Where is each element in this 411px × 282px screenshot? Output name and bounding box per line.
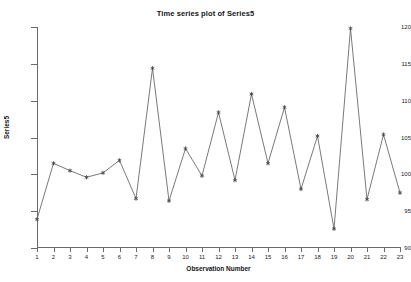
data-point-marker xyxy=(332,227,336,231)
x-axis-title: Observation Number xyxy=(37,265,400,272)
x-tick-label: 18 xyxy=(310,254,326,260)
y-tick-label: 120 xyxy=(385,24,411,30)
y-axis-line xyxy=(37,27,38,248)
chart-figure: Time series plot of Series5 909510010511… xyxy=(0,0,411,282)
x-tick-label: 10 xyxy=(178,254,194,260)
x-tick-label: 14 xyxy=(244,254,260,260)
x-tick-label: 6 xyxy=(112,254,128,260)
data-point-marker xyxy=(151,66,155,70)
y-tick-mark xyxy=(31,211,37,212)
x-tick-mark xyxy=(318,247,319,252)
x-tick-label: 1 xyxy=(29,254,45,260)
x-tick-label: 19 xyxy=(326,254,342,260)
data-point-marker xyxy=(184,146,188,150)
x-tick-mark xyxy=(400,247,401,252)
x-tick-mark xyxy=(252,247,253,252)
x-tick-mark xyxy=(37,247,38,252)
x-tick-mark xyxy=(384,247,385,252)
data-point-marker xyxy=(283,105,287,109)
x-tick-label: 3 xyxy=(62,254,78,260)
x-tick-mark xyxy=(87,247,88,252)
data-point-marker xyxy=(217,110,221,114)
x-tick-label: 11 xyxy=(194,254,210,260)
x-tick-mark xyxy=(367,247,368,252)
data-point-marker xyxy=(52,161,56,165)
data-point-marker xyxy=(266,161,270,165)
x-tick-label: 2 xyxy=(46,254,62,260)
x-tick-label: 16 xyxy=(277,254,293,260)
x-tick-label: 15 xyxy=(260,254,276,260)
x-tick-mark xyxy=(268,247,269,252)
y-tick-label: 90 xyxy=(385,245,411,251)
y-tick-mark xyxy=(31,27,37,28)
y-tick-label: 100 xyxy=(385,171,411,177)
x-tick-label: 7 xyxy=(128,254,144,260)
x-tick-label: 17 xyxy=(293,254,309,260)
data-point-marker xyxy=(365,197,369,201)
x-tick-mark xyxy=(169,247,170,252)
data-point-marker xyxy=(200,174,204,178)
chart-title: Time series plot of Series5 xyxy=(0,9,411,18)
x-tick-mark xyxy=(120,247,121,252)
y-tick-mark xyxy=(31,174,37,175)
series-polyline xyxy=(37,28,400,228)
data-point-marker xyxy=(68,169,72,173)
data-point-marker xyxy=(134,197,138,201)
x-tick-label: 23 xyxy=(392,254,408,260)
x-tick-mark xyxy=(186,247,187,252)
data-point-marker xyxy=(118,158,122,162)
x-tick-label: 22 xyxy=(376,254,392,260)
x-tick-mark xyxy=(219,247,220,252)
x-tick-label: 21 xyxy=(359,254,375,260)
data-point-marker xyxy=(85,175,89,179)
x-tick-label: 12 xyxy=(211,254,227,260)
x-tick-mark xyxy=(202,247,203,252)
data-point-marker xyxy=(233,178,237,182)
x-tick-mark xyxy=(334,247,335,252)
x-tick-label: 8 xyxy=(145,254,161,260)
x-tick-mark xyxy=(351,247,352,252)
x-tick-mark xyxy=(153,247,154,252)
y-tick-label: 110 xyxy=(385,97,411,103)
x-tick-mark xyxy=(285,247,286,252)
y-tick-mark xyxy=(31,64,37,65)
y-tick-mark xyxy=(31,138,37,139)
y-axis-title: Series5 xyxy=(3,106,10,150)
data-point-marker xyxy=(299,187,303,191)
y-tick-label: 95 xyxy=(385,208,411,214)
y-tick-mark xyxy=(31,101,37,102)
x-tick-label: 4 xyxy=(79,254,95,260)
x-tick-mark xyxy=(235,247,236,252)
data-point-marker xyxy=(349,26,353,30)
data-point-marker xyxy=(316,134,320,138)
series-markers xyxy=(35,26,402,231)
x-tick-mark xyxy=(136,247,137,252)
x-tick-label: 5 xyxy=(95,254,111,260)
x-tick-mark xyxy=(103,247,104,252)
x-tick-mark xyxy=(54,247,55,252)
y-tick-label: 105 xyxy=(385,134,411,140)
x-tick-mark xyxy=(301,247,302,252)
data-point-marker xyxy=(101,171,105,175)
data-point-marker xyxy=(398,191,402,195)
x-tick-mark xyxy=(70,247,71,252)
x-tick-label: 13 xyxy=(227,254,243,260)
x-tick-label: 9 xyxy=(161,254,177,260)
data-point-marker xyxy=(250,92,254,96)
y-tick-label: 115 xyxy=(385,60,411,66)
data-point-marker xyxy=(167,199,171,203)
series-line-plot xyxy=(0,0,411,282)
x-tick-label: 20 xyxy=(343,254,359,260)
